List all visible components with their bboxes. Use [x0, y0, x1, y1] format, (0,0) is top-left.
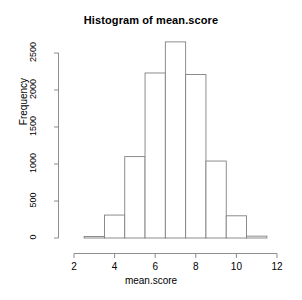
y-axis-tick-label: 500	[28, 183, 38, 217]
x-axis-tick-label: 8	[184, 261, 208, 272]
histogram-bar	[247, 236, 267, 238]
histogram-plot: Histogram of mean.score Frequency mean.s…	[0, 0, 302, 300]
x-axis-tick-label: 12	[265, 261, 289, 272]
histogram-bar	[145, 73, 165, 238]
x-axis-tick-label: 6	[143, 261, 167, 272]
x-axis-tick-label: 2	[62, 261, 86, 272]
y-axis-tick-label: 2000	[28, 72, 38, 106]
x-axis-label: mean.score	[0, 275, 302, 286]
x-axis-tick-label: 10	[224, 261, 248, 272]
histogram-bar	[206, 161, 226, 238]
x-axis-tick-label: 4	[103, 261, 127, 272]
y-axis-tick-label: 2500	[28, 35, 38, 69]
y-axis-tick-label: 1000	[28, 146, 38, 180]
histogram-bar	[104, 215, 124, 238]
y-axis-label: Frequency	[18, 32, 29, 172]
histogram-bar	[125, 157, 145, 238]
histogram-bar	[186, 74, 206, 238]
bar-series	[84, 42, 267, 238]
histogram-bar	[226, 216, 246, 238]
chart-title: Histogram of mean.score	[0, 14, 302, 26]
plot-canvas	[0, 0, 302, 300]
histogram-bar	[165, 42, 185, 238]
y-axis-tick-label: 0	[28, 220, 38, 254]
histogram-bar	[84, 237, 104, 238]
y-axis-tick-label: 1500	[28, 109, 38, 143]
